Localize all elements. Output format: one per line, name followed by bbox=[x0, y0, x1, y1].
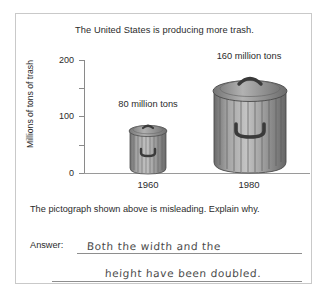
handwritten-answer-line-1: Both the width and the bbox=[87, 240, 222, 252]
answer-block: Answer: Both the width and the height ha… bbox=[30, 236, 302, 256]
y-tick-150 bbox=[79, 88, 85, 89]
value-label-1960: 80 million tons bbox=[92, 99, 204, 109]
x-tick-label-1980: 1980 bbox=[214, 179, 284, 190]
x-tick-label-1960: 1960 bbox=[113, 179, 183, 190]
value-label-1980: 160 million tons bbox=[193, 51, 305, 61]
worksheet-card: The United States is producing more tras… bbox=[15, 13, 312, 284]
y-tick-50 bbox=[79, 145, 85, 146]
answer-rule-line-1 bbox=[77, 253, 302, 254]
chart-title: The United States is producing more tras… bbox=[16, 25, 313, 35]
answer-rule-line-2 bbox=[52, 281, 302, 282]
answer-label: Answer: bbox=[30, 240, 63, 250]
y-tick-label-0: 0 bbox=[38, 168, 74, 178]
pictograph-chart: The United States is producing more tras… bbox=[16, 14, 313, 204]
question-prompt: The pictograph shown above is misleading… bbox=[30, 204, 302, 214]
y-axis-label: Millions of tons of trash bbox=[25, 42, 35, 167]
handwritten-answer-line-2: height have been doubled. bbox=[105, 267, 262, 279]
y-tick-label-100: 100 bbox=[38, 111, 74, 121]
trash-can-icon-small bbox=[125, 118, 171, 176]
y-tick-200 bbox=[79, 60, 85, 61]
trash-can-icon-large bbox=[206, 67, 294, 177]
y-tick-label-200: 200 bbox=[38, 55, 74, 65]
y-tick-100 bbox=[79, 116, 85, 117]
